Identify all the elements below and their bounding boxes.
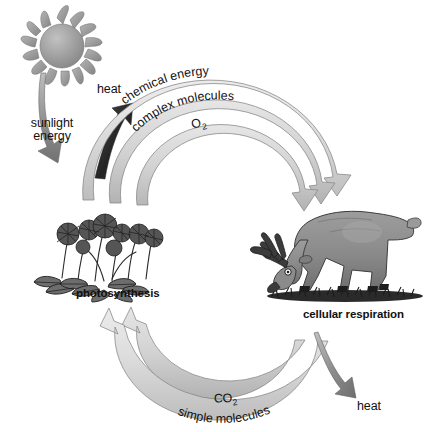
heat-arrow-bottom	[314, 332, 356, 398]
sunlight-energy-line2: energy	[21, 130, 83, 143]
sunlight-energy-line1: sunlight	[21, 117, 83, 130]
top-arc-inner	[136, 125, 318, 211]
sun-icon	[21, 6, 102, 87]
heat-label-bottom: heat	[357, 400, 381, 413]
sunlight-energy-label: sunlight energy	[21, 117, 83, 143]
photosynthesis-label: photosynthesis	[76, 288, 160, 300]
energy-flow-diagram: chemical energy complex molecules O2 CO2…	[0, 0, 433, 432]
diagram-canvas: chemical energy complex molecules O2 CO2…	[0, 0, 433, 432]
grazing-deer-icon	[250, 211, 423, 302]
cellular-respiration-label: cellular respiration	[303, 309, 404, 321]
heat-label-top: heat	[97, 83, 121, 96]
